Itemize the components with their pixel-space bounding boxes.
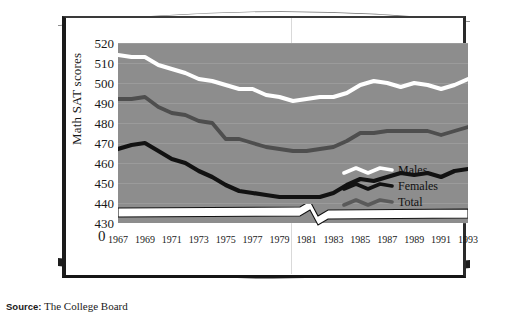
x-tick-label: 1967 <box>108 234 128 245</box>
x-tick-label: 1987 <box>377 234 397 245</box>
y-axis-title-container: Math SAT scores <box>78 40 94 230</box>
y-tick-label: 470 <box>95 137 115 150</box>
y-axis-title: Math SAT scores <box>69 53 85 145</box>
x-tick-label: 1971 <box>162 234 182 245</box>
x-axis-ticks: 1967196919711973197519771979198119831985… <box>118 234 468 250</box>
y-tick-label: 480 <box>95 117 115 130</box>
x-tick-label: 1989 <box>404 234 424 245</box>
y-tick-label: 440 <box>95 197 115 210</box>
x-tick-label: 1983 <box>323 234 343 245</box>
source-caption: Source: The College Board <box>6 300 128 312</box>
series-line-males <box>118 55 468 101</box>
x-tick-label: 1985 <box>350 234 370 245</box>
legend-item: Females <box>342 180 462 196</box>
source-label: Source: <box>6 301 41 312</box>
y-axis-zero-tick: 0 <box>98 228 106 245</box>
x-tick-label: 1975 <box>216 234 236 245</box>
axis-break-baseline <box>118 204 468 230</box>
y-tick-label: 520 <box>95 37 115 50</box>
x-tick-label: 1973 <box>189 234 209 245</box>
x-tick-label: 1981 <box>297 234 317 245</box>
x-tick-label: 1969 <box>135 234 155 245</box>
scanned-page: Math SAT scores 520510500490480470460450… <box>0 0 526 327</box>
y-tick-label: 460 <box>95 157 115 170</box>
x-tick-label: 1991 <box>431 234 451 245</box>
x-tick-label: 1993 <box>458 234 478 245</box>
legend-label: Males <box>398 163 427 178</box>
plot-area: MalesFemalesTotal <box>118 43 468 223</box>
y-tick-label: 490 <box>95 97 115 110</box>
y-tick-label: 510 <box>95 57 115 70</box>
x-tick-label: 1977 <box>243 234 263 245</box>
y-axis-ticks: 520510500490480470460450440430 <box>96 34 114 220</box>
series-line-total <box>118 97 468 151</box>
y-tick-label: 500 <box>95 77 115 90</box>
legend-label: Females <box>398 179 438 194</box>
x-tick-label: 1979 <box>270 234 290 245</box>
y-tick-label: 450 <box>95 177 115 190</box>
source-value: The College Board <box>44 300 128 312</box>
legend-item: Males <box>342 164 462 180</box>
